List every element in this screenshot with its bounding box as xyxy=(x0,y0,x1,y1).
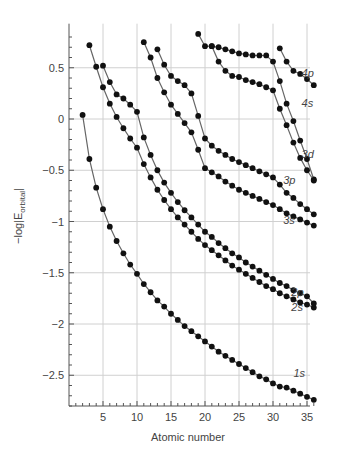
data-point xyxy=(257,168,263,174)
data-point xyxy=(182,120,188,126)
data-point xyxy=(161,62,167,68)
data-point xyxy=(202,242,208,248)
data-point xyxy=(161,89,167,95)
data-point xyxy=(168,102,174,108)
data-point xyxy=(155,46,161,52)
data-point xyxy=(216,44,222,50)
data-point xyxy=(263,272,269,278)
y-axis-title: −log|Eorbital| xyxy=(12,188,27,244)
series-label-1s: 1s xyxy=(293,367,305,379)
data-point xyxy=(100,84,106,90)
x-tick-label: 35 xyxy=(301,411,313,423)
data-point xyxy=(297,391,303,397)
data-point xyxy=(229,73,235,79)
x-tick-label: 10 xyxy=(131,411,143,423)
data-point xyxy=(107,79,113,85)
data-point xyxy=(257,53,263,59)
data-point xyxy=(121,96,127,102)
data-point xyxy=(304,220,310,226)
data-point xyxy=(202,339,208,345)
data-point xyxy=(223,152,229,158)
data-point xyxy=(277,182,283,188)
data-point xyxy=(209,247,215,253)
data-point xyxy=(175,78,181,84)
data-point xyxy=(148,289,154,295)
series-labels: 1s2s2p3s3p3d4s4p xyxy=(283,67,314,379)
data-point xyxy=(121,250,127,256)
data-point xyxy=(229,250,235,256)
data-point xyxy=(236,74,242,80)
data-point xyxy=(277,45,283,51)
series-label-3p: 3p xyxy=(283,174,295,186)
data-point xyxy=(134,109,140,115)
data-point xyxy=(277,106,283,112)
data-point xyxy=(277,206,283,212)
data-point xyxy=(189,328,195,334)
data-point xyxy=(216,240,222,246)
data-point xyxy=(195,222,201,228)
data-series xyxy=(80,31,317,403)
data-point xyxy=(202,43,208,49)
data-point xyxy=(87,156,93,162)
data-point xyxy=(148,175,154,181)
y-axis-title-sub: orbital xyxy=(18,191,27,213)
data-point xyxy=(80,112,86,118)
data-point xyxy=(155,167,161,173)
data-point xyxy=(277,290,283,296)
data-point xyxy=(229,263,235,269)
data-point xyxy=(277,280,283,286)
data-point xyxy=(209,344,215,350)
data-point xyxy=(291,195,297,201)
data-point xyxy=(223,46,229,52)
data-point xyxy=(209,234,215,240)
data-point xyxy=(236,187,242,193)
data-point xyxy=(195,147,201,153)
data-point xyxy=(182,222,188,228)
series-3d xyxy=(209,43,317,182)
data-point xyxy=(270,175,276,181)
data-point xyxy=(243,162,249,168)
data-point xyxy=(236,254,242,260)
data-point xyxy=(243,260,249,266)
data-point xyxy=(195,113,201,119)
data-point xyxy=(250,275,256,281)
data-point xyxy=(270,286,276,292)
data-point xyxy=(250,193,256,199)
orbital-energy-chart: 51015202530350.50−0.5−1−1.5−2−2.5 1s2s2p… xyxy=(0,0,338,460)
data-point xyxy=(216,349,222,355)
x-tick-label: 30 xyxy=(267,411,279,423)
data-point xyxy=(114,238,120,244)
data-point xyxy=(114,92,120,98)
series-label-3d: 3d xyxy=(302,148,315,160)
y-tick-label: −0.5 xyxy=(42,164,64,176)
data-point xyxy=(257,268,263,274)
series-4s xyxy=(195,31,316,183)
data-point xyxy=(87,42,93,48)
data-point xyxy=(257,196,263,202)
data-point xyxy=(297,138,303,144)
data-point xyxy=(223,179,229,185)
data-point xyxy=(270,59,276,65)
x-tick-label: 5 xyxy=(100,411,106,423)
data-point xyxy=(229,156,235,162)
data-point xyxy=(93,185,99,191)
data-point xyxy=(189,215,195,221)
y-tick-label: 0.5 xyxy=(49,62,64,74)
data-point xyxy=(243,77,249,83)
data-point xyxy=(243,271,249,277)
data-point xyxy=(263,53,269,59)
data-point xyxy=(311,82,317,88)
data-point xyxy=(291,118,297,124)
data-point xyxy=(311,301,317,307)
data-point xyxy=(168,311,174,317)
data-point xyxy=(243,52,249,58)
series-label-4p: 4p xyxy=(302,67,314,79)
data-point xyxy=(304,167,310,173)
data-point xyxy=(107,224,113,230)
data-point xyxy=(311,178,317,184)
data-point xyxy=(263,199,269,205)
data-point xyxy=(250,53,256,59)
data-point xyxy=(134,271,140,277)
data-point xyxy=(311,223,317,229)
data-point xyxy=(284,283,290,289)
